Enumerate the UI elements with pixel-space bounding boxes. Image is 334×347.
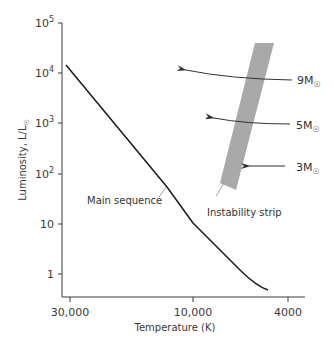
y-axis-title: Luminosity, L/L☉ (17, 119, 31, 201)
x-tick-label: 10,000 (174, 306, 213, 319)
mass-label-3: 3M☉ (296, 161, 320, 176)
instability-strip-label: Instability strip (207, 207, 282, 218)
mass-label-9: 9M☉ (297, 74, 321, 89)
y-tick-label: 103 (35, 115, 54, 130)
mass-label-5: 5M☉ (296, 119, 320, 134)
instability-strip (220, 43, 274, 190)
main-sequence-label: Main sequence (87, 195, 162, 206)
hr-diagram-chart: 105 104 103 102 10 1 30,000 10,000 4000 … (0, 0, 334, 347)
x-tick-labels: 30,000 10,000 4000 (51, 306, 302, 319)
instability-strip-leader (216, 183, 224, 196)
x-axis-title: Temperature (K) (134, 322, 216, 333)
y-tick-label: 1 (47, 268, 54, 281)
y-tick-label: 105 (35, 15, 54, 30)
x-tick-label: 30,000 (51, 306, 90, 319)
y-tick-label: 102 (35, 166, 54, 181)
x-tick-label: 4000 (274, 306, 302, 319)
y-tick-label: 104 (35, 65, 54, 80)
track-arrow-9-solar-mass (186, 70, 292, 80)
y-tick-labels: 105 104 103 102 10 1 (35, 15, 54, 281)
y-tick-label: 10 (40, 218, 54, 231)
